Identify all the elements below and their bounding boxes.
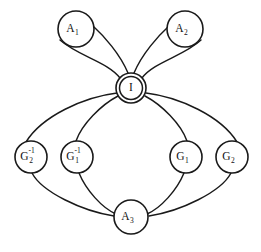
node-label-base-G1: G xyxy=(176,150,184,162)
node-label-sup-G2inv: -1 xyxy=(28,146,34,155)
node-label-base-A2: A xyxy=(175,22,184,34)
graph-node-I[interactable]: I xyxy=(116,73,146,103)
node-label-sub-A1: 1 xyxy=(75,28,79,37)
node-label-base-G1inv: G xyxy=(66,150,74,162)
graph-node-G2inv[interactable]: G2-1 xyxy=(15,141,47,173)
graph-node-A1[interactable]: A1 xyxy=(58,11,94,47)
graph-edge-I-G2 xyxy=(146,93,237,142)
graph-edge-G2inv-A3 xyxy=(32,173,114,216)
node-label-sub-G2: 2 xyxy=(231,156,235,165)
node-label-sub-A2: 2 xyxy=(184,28,188,37)
diagram-canvas: A1A2IG2-1G1-1G1G2A3 xyxy=(0,0,261,252)
node-label-sub-G2inv: 2 xyxy=(29,156,33,165)
node-label-sub-G1inv: 1 xyxy=(75,156,79,165)
graph-svg: A1A2IG2-1G1-1G1G2A3 xyxy=(0,0,261,252)
graph-edge-I-G1inv xyxy=(76,96,118,141)
graph-node-G1[interactable]: G1 xyxy=(170,141,202,173)
node-label-base-G2inv: G xyxy=(20,150,28,162)
graph-edge-I-A1 xyxy=(93,26,128,73)
node-label-sup-G1inv: -1 xyxy=(74,146,80,155)
node-label-base-G2: G xyxy=(222,150,230,162)
graph-edge-G2-A3 xyxy=(149,173,231,216)
node-label-base-I: I xyxy=(129,81,133,93)
graph-node-A3[interactable]: A3 xyxy=(114,200,148,234)
node-label-sub-A3: 3 xyxy=(130,216,134,225)
graph-node-G1inv[interactable]: G1-1 xyxy=(61,141,93,173)
graph-edge-I-G1 xyxy=(145,96,187,141)
node-label-I: I xyxy=(129,81,133,93)
node-label-base-A3: A xyxy=(121,210,130,222)
edge-layer xyxy=(26,26,237,216)
node-label-base-A1: A xyxy=(66,22,75,34)
graph-node-A2[interactable]: A2 xyxy=(167,11,203,47)
node-layer: A1A2IG2-1G1-1G1G2A3 xyxy=(15,11,248,234)
graph-edge-I-G2inv xyxy=(26,93,117,142)
graph-node-G2[interactable]: G2 xyxy=(216,141,248,173)
node-label-sub-G1: 1 xyxy=(185,156,189,165)
graph-edge-I-A2 xyxy=(134,26,169,73)
